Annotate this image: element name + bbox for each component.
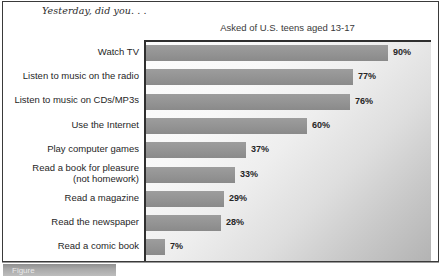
- bar-row: 7%: [146, 239, 431, 255]
- bar: [146, 45, 388, 61]
- category-label-line: Read a book for pleasure: [6, 163, 139, 174]
- bar: [146, 167, 235, 183]
- category-label: Listen to music on the radio: [6, 71, 139, 82]
- figure-caption-tab: Figure: [3, 264, 116, 276]
- bar-value-label: 90%: [393, 47, 411, 57]
- bar-rows: 90%77%76%60%37%33%29%28%7%: [146, 40, 431, 261]
- category-label-line: Listen to music on the radio: [6, 71, 139, 82]
- category-label: Watch TV: [6, 47, 139, 58]
- bar-value-label: 33%: [240, 169, 258, 179]
- bar-row: 29%: [146, 191, 431, 207]
- category-label-line: Play computer games: [6, 144, 139, 155]
- bar-row: 77%: [146, 69, 431, 85]
- category-label: Use the Internet: [6, 120, 139, 131]
- bar-row: 28%: [146, 215, 431, 231]
- bar-value-label: 29%: [229, 193, 247, 203]
- bar: [146, 191, 224, 207]
- plot-area: 90%77%76%60%37%33%29%28%7%: [144, 40, 431, 261]
- bar-value-label: 7%: [170, 241, 183, 251]
- bar: [146, 142, 246, 158]
- bar-value-label: 60%: [312, 120, 330, 130]
- bar-row: 33%: [146, 167, 431, 183]
- bar: [146, 69, 353, 85]
- bar-value-label: 37%: [251, 144, 269, 154]
- category-label-line: Use the Internet: [6, 120, 139, 131]
- category-label: Listen to music on CDs/MP3s: [6, 95, 139, 106]
- bar: [146, 94, 350, 110]
- category-label-line: Read a comic book: [6, 241, 139, 252]
- category-label-line: (not homework): [6, 174, 139, 185]
- figure-header-title: Yesterday, did you. . .: [42, 5, 147, 16]
- category-label: Read a comic book: [6, 241, 139, 252]
- bar-value-label: 76%: [355, 96, 373, 106]
- bar: [146, 239, 165, 255]
- bar-row: 60%: [146, 118, 431, 134]
- figure-bottom-rule: [2, 262, 439, 263]
- bar-row: 76%: [146, 94, 431, 110]
- category-label-line: Read the newspaper: [6, 217, 139, 228]
- category-label-line: Listen to music on CDs/MP3s: [6, 95, 139, 106]
- category-label-line: Watch TV: [6, 47, 139, 58]
- category-label: Read the newspaper: [6, 217, 139, 228]
- bar-value-label: 28%: [226, 217, 244, 227]
- bar-row: 90%: [146, 45, 431, 61]
- category-label-line: Read a magazine: [6, 193, 139, 204]
- category-label: Read a book for pleasure(not homework): [6, 163, 139, 184]
- category-label: Read a magazine: [6, 193, 139, 204]
- bar-value-label: 77%: [358, 71, 376, 81]
- bar: [146, 118, 307, 134]
- bar: [146, 215, 221, 231]
- category-label: Play computer games: [6, 144, 139, 155]
- chart-subtitle: Asked of U.S. teens aged 13-17: [144, 22, 431, 33]
- bar-row: 37%: [146, 142, 431, 158]
- category-axis-labels: Watch TVListen to music on the radioList…: [6, 40, 139, 261]
- figure-caption-tab-label: Figure: [12, 266, 35, 275]
